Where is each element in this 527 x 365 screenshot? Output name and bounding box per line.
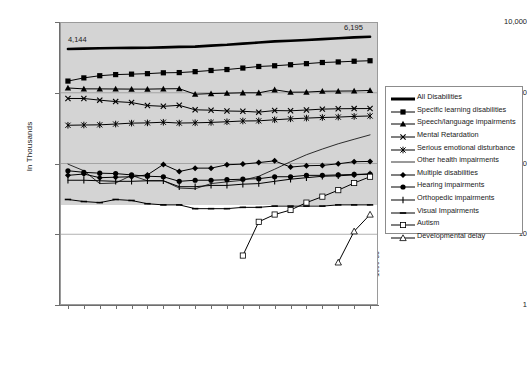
chart-root: In Thousands 10,0001,000100101 1980-8119…: [0, 0, 527, 365]
series-line: [68, 199, 370, 208]
legend-marker-x-cross-icon: [390, 129, 416, 141]
legend-label: Other health impairments: [417, 156, 499, 164]
series-marker: [224, 177, 229, 182]
series-marker: [256, 160, 262, 166]
legend-marker-open-triangle-icon: [390, 230, 416, 242]
legend-item[interactable]: Orthopedic impairments: [390, 192, 519, 205]
series-marker: [97, 171, 102, 176]
series-line: [68, 135, 370, 189]
legend-item[interactable]: Serious emotional disturbance: [390, 141, 519, 154]
series-marker: [81, 75, 86, 80]
legend-label: Orthopedic impairments: [417, 194, 494, 202]
series-line: [243, 177, 370, 256]
series-marker: [335, 161, 341, 167]
series-marker: [208, 68, 213, 73]
series-marker: [240, 253, 245, 258]
x-tick-mark: [116, 305, 117, 309]
series-marker: [288, 207, 293, 212]
legend-item[interactable]: Speech/language impairments: [390, 116, 519, 129]
series-marker: [367, 211, 373, 217]
legend-marker-filled-diamond-icon: [390, 167, 416, 179]
legend-item[interactable]: Mental Retardation: [390, 129, 519, 142]
series-line: [338, 215, 370, 263]
legend-label: Mental Retardation: [417, 131, 479, 139]
x-tick-mark: [338, 305, 339, 309]
x-tick-mark: [227, 305, 228, 309]
legend-item[interactable]: All Disabilities: [390, 91, 519, 104]
legend-item[interactable]: Visual Impairments: [390, 204, 519, 217]
series-marker: [400, 223, 405, 228]
x-tick-mark: [291, 305, 292, 309]
series-10: [65, 199, 374, 208]
plot-area: [60, 22, 378, 305]
series-3: [65, 85, 374, 97]
series-line: [68, 98, 370, 112]
series-12: [335, 211, 373, 265]
y-tick-mark: [55, 305, 60, 306]
x-tick-mark: [370, 305, 371, 309]
legend-marker-none-icon: [390, 91, 416, 103]
legend-marker-filled-circle-icon: [390, 179, 416, 191]
series-marker: [65, 168, 70, 173]
series-marker: [400, 185, 405, 190]
x-tick-mark: [243, 305, 244, 309]
series-marker: [367, 174, 372, 179]
legend-label: Developmental delay: [417, 232, 485, 240]
series-marker: [113, 171, 118, 176]
x-tick-mark: [354, 305, 355, 309]
series-marker: [336, 59, 341, 64]
series-marker: [240, 161, 246, 167]
series-marker: [272, 63, 277, 68]
series-marker: [129, 172, 134, 177]
legend-marker-dash-icon: [390, 205, 416, 217]
legend-marker-filled-square-icon: [390, 104, 416, 116]
series-marker: [272, 212, 277, 217]
legend-marker-open-square-icon: [390, 217, 416, 229]
x-tick-mark: [147, 305, 148, 309]
series-4: [65, 96, 372, 115]
series-marker: [400, 172, 406, 178]
legend-label: Serious emotional disturbance: [417, 144, 515, 152]
legend-item[interactable]: Developmental delay: [390, 230, 519, 243]
data-label: 6,195: [344, 24, 363, 32]
series-marker: [271, 87, 277, 93]
series-marker: [288, 164, 294, 170]
legend-item[interactable]: Other health impairments: [390, 154, 519, 167]
legend-marker-none-icon: [390, 154, 416, 166]
series-line: [68, 37, 370, 49]
legend-key-svg: [390, 232, 416, 244]
legend-label: Specific learning disabilities: [417, 106, 506, 114]
x-tick-mark: [84, 305, 85, 309]
series-line: [68, 116, 370, 125]
series-marker: [177, 70, 182, 75]
legend-item[interactable]: Autism: [390, 217, 519, 230]
series-marker: [208, 165, 214, 171]
series-marker: [81, 170, 86, 175]
legend-label: All Disabilities: [417, 93, 462, 101]
x-tick-mark: [195, 305, 196, 309]
series-2: [65, 58, 372, 84]
y-axis-title: In Thousands: [25, 92, 34, 202]
legend-marker-plus-icon: [390, 192, 416, 204]
series-marker: [288, 62, 293, 67]
legend-item[interactable]: Multiple disabilities: [390, 167, 519, 180]
legend-label: Autism: [417, 219, 439, 227]
series-marker: [224, 67, 229, 72]
series-5: [65, 113, 372, 129]
x-tick-mark: [179, 305, 180, 309]
series-marker: [336, 188, 341, 193]
y-tick-label: 10,000: [473, 18, 527, 26]
legend-marker-filled-triangle-icon: [390, 116, 416, 128]
x-tick-mark: [211, 305, 212, 309]
series-marker: [113, 72, 118, 77]
series-marker: [193, 178, 198, 183]
series-marker: [208, 178, 213, 183]
series-1: [68, 37, 370, 49]
series-marker: [304, 200, 309, 205]
series-marker: [256, 219, 261, 224]
series-marker: [161, 70, 166, 75]
legend-item[interactable]: Hearing impairments: [390, 179, 519, 192]
legend-item[interactable]: Specific learning disabilities: [390, 104, 519, 117]
series-marker: [177, 179, 182, 184]
x-tick-mark: [68, 305, 69, 309]
